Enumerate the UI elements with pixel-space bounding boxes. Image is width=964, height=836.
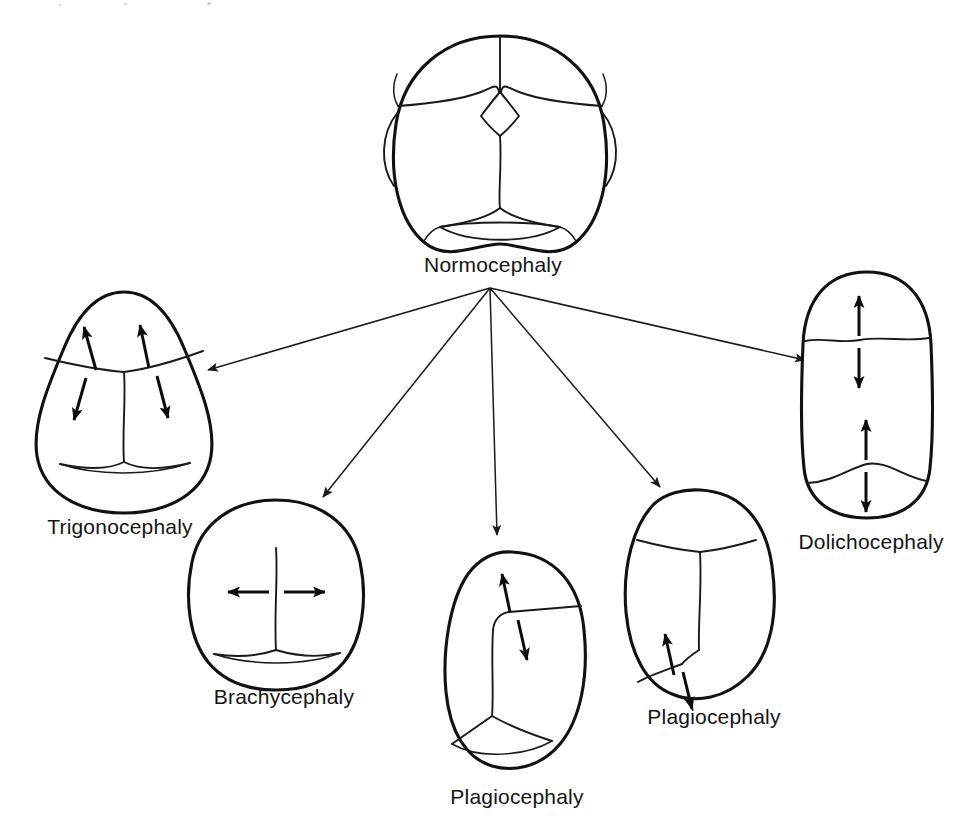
label-plagiocephaly-right: Plagiocephaly [625,705,803,729]
scan-speck [124,3,127,5]
scan-speck [59,4,61,6]
skull-dolichocephaly [802,272,933,518]
flow-arrow-to-brachycephaly [323,288,490,497]
suture-frontal-corner-left-normocephaly [394,74,398,106]
label-dolichocephaly: Dolichocephaly [780,530,962,554]
label-plagiocephaly-center: Plagiocephaly [428,785,606,809]
diagram-canvas [0,0,964,836]
flow-arrow-to-plagiocephaly-center [490,288,497,535]
skull-plagiocephaly-right [625,490,774,709]
flow-arrow-to-plagiocephaly-right [490,288,660,487]
scan-speck [207,2,211,5]
skull-plagiocephaly-center [445,552,585,769]
skull-outline-plagiocephaly-center [445,552,585,769]
skull-trigonocephaly [36,292,212,513]
suture-sagittal-plagiocephaly-center [492,630,493,716]
label-normocephaly: Normocephaly [408,253,578,277]
label-brachycephaly: Brachycephaly [192,685,376,709]
suture-sagittal-normocephaly [499,136,500,208]
flow-arrow-to-trigonocephaly [208,288,490,370]
suture-frontal-corner-right-normocephaly [602,74,606,106]
label-trigonocephaly: Trigonocephaly [30,515,210,539]
flow-arrow-to-dolichocephaly [490,288,805,360]
suture-sagittal-trigonocephaly [123,372,124,462]
skull-normocephaly [384,36,616,252]
cranial-shape-diagram: Normocephaly Trigonocephaly Brachycephal… [0,0,964,836]
suture-sagittal-brachycephaly [275,548,276,650]
skull-brachycephaly [189,500,364,690]
